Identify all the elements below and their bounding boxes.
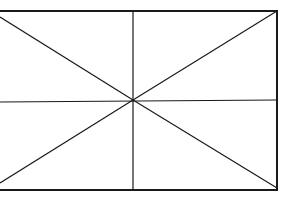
diagonal-lower-left-line bbox=[0, 100, 133, 183]
horizontal-center-line bbox=[0, 100, 277, 102]
diagonal-upper-left-line bbox=[0, 17, 133, 100]
divided-rectangle-diagram bbox=[0, 0, 292, 199]
diagonal-lower-right-line bbox=[133, 100, 277, 188]
diagonal-upper-right-line bbox=[133, 11, 277, 100]
